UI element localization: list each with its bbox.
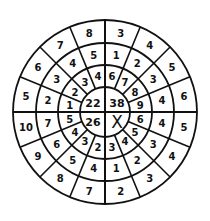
outer-ring-number: 9: [35, 151, 42, 162]
middle-ring-divider: [148, 86, 168, 94]
outer-ring-divider: [40, 161, 56, 177]
outer-ring-number: 5: [168, 62, 175, 73]
middle-ring-divider: [123, 155, 131, 175]
middle-ring-divider: [79, 48, 87, 68]
middle-ring-number: 2: [134, 155, 141, 166]
outer-ring-number: 4: [168, 151, 175, 162]
middle-ring-number: 3: [150, 139, 157, 150]
outer-ring-divider: [70, 27, 79, 48]
center-top-right-number: 38: [109, 97, 124, 110]
middle-ring-number: 1: [113, 50, 120, 61]
outer-ring-number: 6: [35, 62, 42, 73]
outer-ring-divider: [20, 138, 41, 147]
middle-ring-divider: [123, 48, 131, 68]
middle-ring-number: 4: [158, 118, 165, 129]
middle-ring-number: 6: [53, 139, 60, 150]
outer-ring-number: 2: [117, 186, 124, 197]
center-bottom-left-number: 26: [85, 116, 101, 129]
number-circle-puzzle: 6789654323451234123443214567234534565432…: [0, 0, 210, 221]
outer-ring-divider: [131, 27, 140, 48]
middle-ring-number: 1: [113, 163, 120, 174]
inner-ring-number: 4: [122, 136, 129, 147]
inner-ring-number: 2: [95, 142, 102, 153]
inner-ring-number: 6: [137, 114, 144, 125]
outer-ring-divider: [20, 77, 41, 86]
outer-ring-number: 10: [19, 122, 33, 133]
middle-ring-number: 5: [90, 50, 97, 61]
inner-ring-number: 3: [82, 136, 89, 147]
middle-ring-number: 3: [53, 74, 60, 85]
outer-ring-divider: [40, 47, 56, 63]
middle-ring-number: 2: [45, 95, 52, 106]
outer-ring-divider: [154, 47, 170, 63]
inner-ring-number: 9: [137, 100, 144, 111]
inner-ring-number: 5: [66, 114, 73, 125]
middle-ring-number: 2: [134, 58, 141, 69]
outer-ring-number: 3: [117, 28, 124, 39]
outer-ring-number: 7: [86, 186, 93, 197]
outer-ring-divider: [154, 161, 170, 177]
middle-ring-divider: [148, 130, 168, 138]
inner-ring-number: 5: [131, 127, 138, 138]
inner-ring-number: 8: [131, 87, 138, 98]
outer-ring-divider: [70, 176, 79, 197]
middle-ring-number: 4: [69, 58, 76, 69]
outer-ring-number: 5: [23, 91, 30, 102]
inner-ring-number: 4: [72, 127, 79, 138]
middle-ring-divider: [41, 130, 61, 138]
middle-ring-number: 4: [158, 95, 165, 106]
middle-ring-number: 7: [45, 118, 52, 129]
outer-ring-divider: [131, 176, 140, 197]
circle-grid: [13, 20, 197, 204]
outer-ring-number: 7: [57, 40, 64, 51]
outer-ring-number: 3: [146, 173, 153, 184]
middle-ring-divider: [41, 86, 61, 94]
inner-ring-number: 2: [72, 87, 79, 98]
outer-ring-divider: [169, 138, 190, 147]
middle-ring-number: 5: [69, 155, 76, 166]
inner-ring-number: 1: [66, 100, 73, 111]
inner-ring-number: 3: [109, 142, 116, 153]
center-bottom-right-unknown: X: [111, 112, 123, 132]
middle-ring-divider: [79, 155, 87, 175]
outer-ring-number: 4: [146, 40, 153, 51]
middle-ring-number: 3: [150, 74, 157, 85]
inner-ring-number: 6: [109, 71, 116, 82]
outer-ring-number: 8: [86, 28, 93, 39]
outer-ring-number: 5: [181, 122, 188, 133]
center-top-left-number: 22: [85, 97, 100, 110]
inner-ring-number: 7: [122, 77, 129, 88]
middle-ring-number: 4: [90, 163, 97, 174]
outer-ring-number: 8: [57, 173, 64, 184]
outer-ring-divider: [169, 77, 190, 86]
inner-ring-number: 3: [82, 77, 89, 88]
outer-ring-number: 6: [181, 91, 188, 102]
inner-ring-number: 4: [95, 71, 102, 82]
